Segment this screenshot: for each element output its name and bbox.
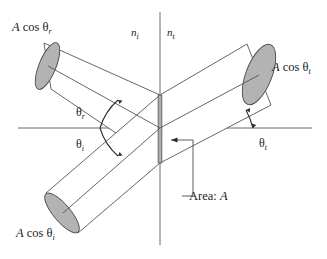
transmitted-beam-label: A cos θt bbox=[271, 60, 312, 76]
incident-beam-label: A cos θi bbox=[15, 226, 55, 242]
index-transmitted-label: nt bbox=[167, 26, 176, 41]
optics-figure: A cos θr A cos θi A cos θt ni nt θr θi θ… bbox=[0, 0, 327, 259]
angle-incident-label: θi bbox=[76, 137, 84, 153]
transmitted-beam-label-a: A bbox=[271, 60, 280, 74]
reflected-beam-label-sub: r bbox=[49, 27, 53, 36]
optics-diagram-canvas: A cos θr A cos θi A cos θt ni nt θr θi θ… bbox=[0, 0, 327, 259]
angle-incident-sub: i bbox=[82, 144, 84, 153]
incident-beam-label-cos: cos bbox=[24, 226, 47, 240]
reflected-beam-label: A cos θr bbox=[11, 20, 53, 36]
angle-transmitted-sub: t bbox=[265, 143, 268, 152]
incident-beam-label-a: A bbox=[15, 226, 24, 240]
transmitted-beam-label-cos: cos bbox=[280, 60, 303, 74]
reflected-beam-label-a: A bbox=[11, 20, 20, 34]
angle-reflected-sub: r bbox=[82, 112, 86, 121]
reflected-beam-label-cos: cos bbox=[20, 20, 43, 34]
transmitted-beam-label-sub: t bbox=[309, 67, 312, 76]
area-callout-text: Area: bbox=[189, 189, 220, 203]
area-callout-label: Area: A bbox=[189, 189, 228, 203]
index-incident-label: ni bbox=[131, 26, 139, 41]
angle-transmitted-label: θt bbox=[259, 136, 268, 152]
index-incident-sub: i bbox=[137, 32, 139, 41]
area-callout-symbol: A bbox=[219, 189, 228, 203]
incident-beam-label-sub: i bbox=[53, 233, 55, 242]
index-transmitted-sub: t bbox=[173, 32, 176, 41]
